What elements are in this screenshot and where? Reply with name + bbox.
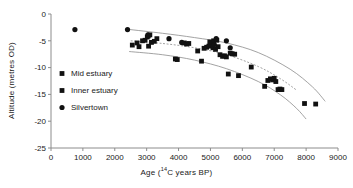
data-point-silvertown [228, 45, 233, 50]
y-axis-title: Altitude (metres OD) [7, 16, 16, 146]
data-point-mid-estuary [262, 84, 267, 89]
data-point-mid-estuary [154, 36, 159, 41]
data-point-silvertown [125, 27, 130, 32]
x-tick-label: 8000 [297, 153, 315, 162]
x-tick-label: 6000 [233, 153, 251, 162]
x-tick-label: 3000 [138, 153, 156, 162]
legend-label-0: Mid estuary [71, 69, 112, 78]
data-point-silvertown [145, 32, 150, 37]
y-tick-label: -10 [34, 63, 46, 72]
x-tick-label: 7000 [265, 153, 283, 162]
x-tick-label: 4000 [170, 153, 188, 162]
data-point-silvertown [224, 38, 229, 43]
legend-marker-0 [60, 71, 65, 76]
x-tick-label: 2000 [106, 153, 124, 162]
y-tick-label: 0 [42, 10, 47, 19]
data-point-mid-estuary [232, 52, 237, 57]
scatter-plot: 0-5-10-15-20-250100020003000400050006000… [0, 0, 353, 188]
y-tick-label: -5 [39, 37, 47, 46]
data-point-mid-estuary [249, 65, 254, 70]
data-point-silvertown [179, 40, 184, 45]
legend-marker-1 [60, 88, 65, 93]
legend-label-2: Silvertown [71, 103, 108, 112]
x-axis-title: Age (14C years BP) [0, 166, 353, 177]
x-axis-title-prefix: Age ( [141, 168, 161, 177]
x-axis-title-suffix: C years BP) [167, 168, 212, 177]
y-tick-label: -25 [34, 144, 46, 153]
data-point-mid-estuary [130, 43, 135, 48]
data-point-mid-estuary [279, 87, 284, 92]
legend-label-1: Inner estuary [71, 86, 118, 95]
data-point-mid-estuary [195, 49, 200, 54]
data-point-mid-estuary [137, 44, 142, 49]
data-point-silvertown [214, 36, 219, 41]
figure: 0-5-10-15-20-250100020003000400050006000… [0, 0, 353, 188]
lower-bound-curve [129, 52, 306, 120]
x-tick-label: 9000 [329, 153, 347, 162]
data-point-mid-estuary [273, 79, 278, 84]
y-tick-label: -15 [34, 90, 46, 99]
data-point-mid-estuary [175, 57, 180, 62]
legend-marker-2 [59, 105, 64, 110]
data-point-mid-estuary [186, 41, 191, 46]
data-point-silvertown [166, 36, 171, 41]
x-tick-label: 0 [49, 153, 54, 162]
data-point-mid-estuary [226, 72, 231, 77]
y-tick-label: -20 [34, 117, 46, 126]
data-point-silvertown [72, 27, 77, 32]
x-tick-label: 1000 [74, 153, 92, 162]
data-point-mid-estuary [313, 102, 318, 107]
data-point-mid-estuary [199, 59, 204, 64]
data-point-mid-estuary [236, 73, 241, 78]
data-point-silvertown [212, 42, 217, 47]
data-point-mid-estuary [302, 101, 307, 106]
x-tick-label: 5000 [202, 153, 220, 162]
